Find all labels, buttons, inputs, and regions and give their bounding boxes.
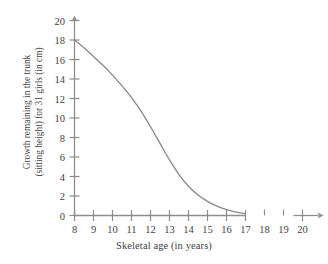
y-tick-label-16: 16 [44, 54, 65, 65]
y-tick-label-8: 8 [44, 132, 65, 143]
x-tick-label-18: 18 [259, 224, 270, 235]
x-tick-label-14: 14 [183, 224, 194, 235]
y-tick-label-14: 14 [44, 74, 65, 85]
data-series-curve [75, 40, 246, 214]
x-tick-label-10: 10 [107, 224, 118, 235]
x-tick-label-20: 20 [297, 224, 308, 235]
x-tick-label-13: 13 [164, 224, 175, 235]
x-axis-title: Skeletal age (in years) [0, 240, 328, 251]
x-tick-label-9: 9 [91, 224, 96, 235]
y-tick-label-18: 18 [44, 35, 65, 46]
x-tick-label-17: 17 [240, 224, 251, 235]
y-tick-label-10: 10 [44, 113, 65, 124]
x-tick-label-15: 15 [202, 224, 213, 235]
x-tick-label-19: 19 [278, 224, 289, 235]
x-tick-label-11: 11 [126, 224, 136, 235]
chart-figure: 0 2 4 6 8 10 12 14 16 18 20 8 9 10 11 12… [0, 0, 328, 264]
x-tick-label-16: 16 [221, 224, 232, 235]
x-tick-label-8: 8 [72, 224, 77, 235]
y-tick-label-20: 20 [44, 15, 65, 26]
y-tick-label-12: 12 [44, 93, 65, 104]
y-tick-label-6: 6 [44, 152, 65, 163]
y-axis [72, 16, 78, 216]
x-axis [75, 210, 324, 222]
y-tick-label-0: 0 [44, 210, 65, 221]
x-tick-label-12: 12 [145, 224, 156, 235]
y-tick-label-2: 2 [44, 191, 65, 202]
y-tick-label-4: 4 [44, 171, 65, 182]
